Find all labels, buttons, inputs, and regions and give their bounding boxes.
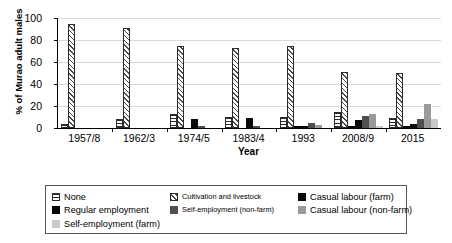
bar-regular-2008-9 [348,126,355,128]
bar-cultivation-1993 [287,46,294,129]
legend-item-self-employment-farm[interactable]: Self-employment (farm) [52,219,170,229]
bar-casual_farm-2008-9 [355,120,362,128]
bar-self_nonfarm-2015 [417,119,424,128]
bar-self_farm-2015 [431,119,438,128]
bar-self_nonfarm-1983-4 [253,126,260,128]
plot-area-wrapper: % of Murao adult males 100806040200 1957… [0,0,452,178]
y-tickmark-0 [54,128,58,129]
self-employment-nonfarm-swatch-icon [170,206,178,214]
x-tick-1974-5: 1974/5 [166,130,221,146]
y-axis-tick-labels: 100806040200 [12,0,42,128]
bar-regular-2015 [403,126,410,128]
y-tick-60: 60 [16,57,42,68]
bar-group-1993 [277,18,332,128]
legend-item-regular-employment[interactable]: Regular employment [52,205,170,215]
regular-employment-swatch-icon [52,206,60,214]
bar-cultivation-1974-5 [177,46,184,129]
x-tick-1993: 1993 [276,130,331,146]
bar-self_nonfarm-2008-9 [362,116,369,128]
bar-group-1974-5 [167,18,222,128]
legend-label: Casual labour (non-farm) [310,205,412,215]
casual-labour-nonfarm-swatch-icon [298,206,306,214]
bar-cultivation-1957-8 [68,24,75,129]
legend-item-self-employment-nonfarm[interactable]: Self-employment (non-farm) [170,205,298,215]
bar-cultivation-1962-3 [123,28,130,128]
x-tick-2015: 2015 [385,130,440,146]
bar-self_nonfarm-1993 [308,123,315,129]
bar-regular-1993 [294,126,301,128]
plot-area [57,18,441,129]
bar-casual_nonfarm-1993 [315,125,322,128]
bar-none-1993 [280,117,287,128]
bar-none-1983-4 [225,117,232,128]
x-tick-1983-4: 1983/4 [221,130,276,146]
legend-label: None [64,192,86,202]
bar-chart: % of Murao adult males 100806040200 1957… [0,0,452,243]
bar-group-1957-8 [58,18,113,128]
y-tick-40: 40 [16,79,42,90]
bar-groups [58,18,441,128]
x-tick-2008-9: 2008/9 [331,130,386,146]
legend-item-cultivation[interactable]: Cultivation and livestock [170,192,298,202]
y-tick-100: 100 [16,13,42,24]
legend-label: Regular employment [64,205,149,215]
y-tick-20: 20 [16,101,42,112]
y-tick-0: 0 [16,123,42,134]
none-swatch-icon [52,193,60,201]
bar-casual_nonfarm-2015 [424,104,431,128]
legend-label: Self-employment (farm) [64,219,160,229]
bar-casual_farm-1983-4 [246,118,253,128]
bar-self_farm-2008-9 [376,126,383,128]
bar-none-2008-9 [334,112,341,129]
x-axis-tick-labels: 1957/81962/31974/51983/419932008/92015 [57,130,440,146]
legend-label: Cultivation and livestock [182,192,261,202]
bar-casual_farm-2015 [410,124,417,128]
self-employment-farm-swatch-icon [52,220,60,228]
bar-cultivation-2008-9 [341,72,348,128]
cultivation-swatch-icon [170,193,178,201]
legend: NoneCultivation and livestockCasual labo… [45,185,407,234]
bar-none-1962-3 [116,119,123,128]
y-tick-80: 80 [16,35,42,46]
x-tick-1962-3: 1962/3 [112,130,167,146]
bar-casual_farm-1974-5 [191,119,198,128]
bar-casual_farm-1993 [301,126,308,128]
bar-group-2008-9 [332,18,387,128]
bar-group-2015 [386,18,441,128]
casual-farm-swatch-icon [298,193,306,201]
legend-item-casual-farm[interactable]: Casual labour (farm) [298,192,412,202]
legend-label: Self-employment (non-farm) [182,205,274,215]
legend-label: Casual labour (farm) [310,192,394,202]
bar-cultivation-2015 [396,73,403,128]
legend-item-none[interactable]: None [52,192,170,202]
legend-item-casual-labour-nonfarm[interactable]: Casual labour (non-farm) [298,205,412,215]
bar-none-1974-5 [170,114,177,128]
bar-group-1962-3 [113,18,168,128]
bar-none-1957-8 [61,124,68,128]
bar-none-2015 [389,118,396,128]
bar-cultivation-1983-4 [232,48,239,128]
bar-self_nonfarm-1974-5 [198,126,205,128]
x-axis-title: Year [57,146,440,157]
x-tick-1957-8: 1957/8 [57,130,112,146]
bar-casual_nonfarm-2008-9 [369,114,376,128]
bar-group-1983-4 [222,18,277,128]
